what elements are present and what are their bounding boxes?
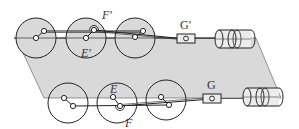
label-e-prime: E′	[80, 46, 91, 60]
top-cylinder	[215, 30, 255, 48]
label-f: F	[124, 116, 133, 129]
label-e: E	[109, 82, 118, 96]
label-g: G	[207, 78, 216, 92]
linkage-diagram: F′ E′ G′	[0, 0, 299, 129]
label-g-prime: G′	[180, 18, 192, 32]
bottom-cylinder	[243, 88, 283, 106]
label-f-prime: F′	[101, 8, 112, 22]
